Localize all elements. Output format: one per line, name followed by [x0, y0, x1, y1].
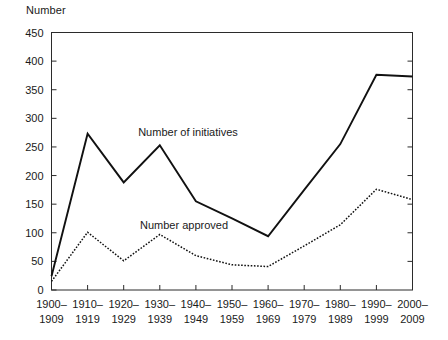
series-2-approved — [52, 189, 413, 281]
x-tick-label: 1979 — [292, 313, 316, 325]
data-series-layer — [52, 75, 413, 282]
x-tick-label: 1999 — [364, 313, 388, 325]
series-annotation: Number of initiatives — [138, 126, 238, 138]
x-axis-ticks — [52, 285, 413, 290]
y-tick-label: 200 — [25, 170, 43, 182]
x-tick-label: 1910– — [72, 298, 103, 310]
x-tick-label: 1940– — [181, 298, 212, 310]
plot-frame — [52, 33, 413, 291]
x-tick-label: 1920– — [108, 298, 139, 310]
y-tick-label: 0 — [37, 284, 43, 296]
x-tick-label: 2009 — [400, 313, 424, 325]
x-axis-tick-labels: 1900–19091910–19191920–19291930–19391940… — [36, 298, 428, 325]
y-tick-label: 400 — [25, 55, 43, 67]
x-tick-label: 1930– — [145, 298, 176, 310]
series-annotation: Number approved — [140, 219, 228, 231]
x-tick-label: 1969 — [256, 313, 280, 325]
x-tick-label: 1950– — [217, 298, 248, 310]
y-tick-label: 300 — [25, 112, 43, 124]
x-tick-label: 1919 — [75, 313, 99, 325]
y-tick-label: 50 — [31, 255, 43, 267]
x-tick-label: 1949 — [184, 313, 208, 325]
line-chart: Number 050100150200250300350400450 1900–… — [0, 0, 448, 340]
x-tick-label: 1990– — [361, 298, 392, 310]
x-tick-label: 1909 — [39, 313, 63, 325]
x-tick-label: 1970– — [289, 298, 320, 310]
x-tick-label: 1900– — [36, 298, 67, 310]
x-tick-label: 1929 — [111, 313, 135, 325]
x-tick-label: 2000– — [397, 298, 428, 310]
x-tick-label: 1980– — [325, 298, 356, 310]
y-axis-ticks — [52, 33, 413, 291]
y-tick-label: 250 — [25, 141, 43, 153]
x-tick-label: 1959 — [220, 313, 244, 325]
x-tick-label: 1939 — [148, 313, 172, 325]
x-tick-label: 1989 — [328, 313, 352, 325]
x-tick-label: 1960– — [253, 298, 284, 310]
y-tick-label: 150 — [25, 198, 43, 210]
y-tick-label: 100 — [25, 227, 43, 239]
y-tick-label: 450 — [25, 27, 43, 39]
y-tick-label: 350 — [25, 84, 43, 96]
y-axis-tick-labels: 050100150200250300350400450 — [25, 27, 43, 297]
chart-canvas: 050100150200250300350400450 1900–1909191… — [0, 0, 448, 340]
